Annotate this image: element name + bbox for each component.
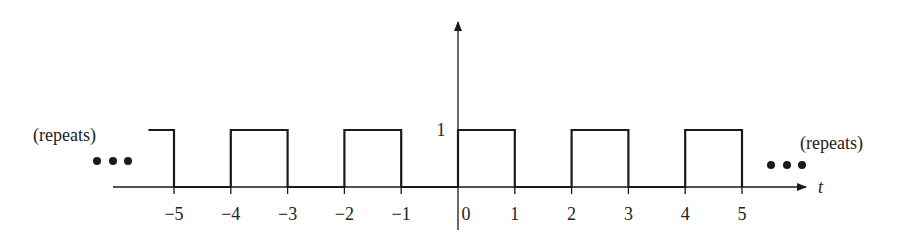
ellipsis-right-icon (767, 161, 806, 169)
x-tick-label: 2 (567, 204, 576, 224)
x-tick-label: −2 (335, 204, 354, 224)
x-tick-label: 1 (510, 204, 519, 224)
repeats-right-label: (repeats) (800, 133, 863, 154)
x-tick-label: −5 (164, 204, 183, 224)
x-tick-labels: −5−4−3−2−1012345 (164, 204, 746, 224)
t-axis-label: t (818, 177, 824, 197)
y-tick-label-1: 1 (437, 120, 446, 140)
ellipsis-left-icon (93, 157, 132, 165)
square-wave-figure: −5−4−3−2−1012345 1 t (repeats) (repeats) (0, 0, 909, 245)
x-tick-label: 0 (462, 204, 471, 224)
x-tick-label: 5 (738, 204, 747, 224)
x-tick-label: −4 (221, 204, 240, 224)
x-tick-label: −3 (278, 204, 297, 224)
repeats-left-label: (repeats) (33, 125, 96, 146)
x-tick-label: −1 (392, 204, 411, 224)
x-tick-label: 3 (624, 204, 633, 224)
x-tick-label: 4 (681, 204, 690, 224)
